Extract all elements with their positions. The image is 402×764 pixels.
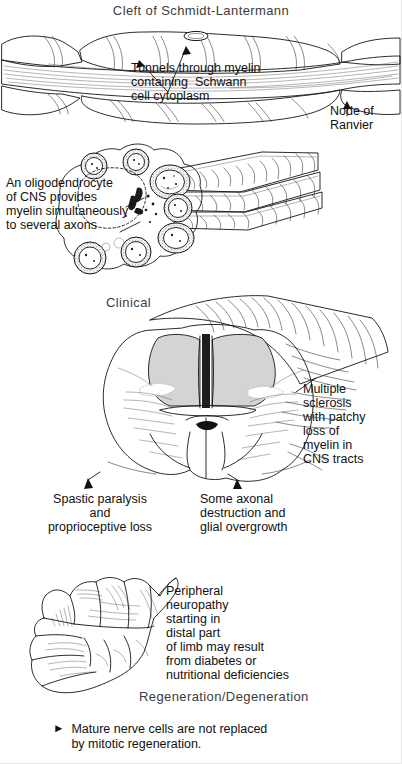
section-header-regeneration-degeneration: Regeneration/Degeneration bbox=[139, 690, 309, 705]
bullet-marker-icon: ► bbox=[53, 722, 64, 736]
bullet-text: Mature nerve cells are not replaced by m… bbox=[71, 722, 267, 752]
callout-peripheral-neuropathy: Peripheral neuropathy starting in distal… bbox=[166, 584, 289, 682]
figure-page: Cleft of Schmidt-Lantermann bbox=[0, 0, 401, 763]
callout-axonal-destruction: Some axonal destruction and glial overgr… bbox=[200, 492, 288, 534]
hand-shading bbox=[46, 586, 158, 676]
section-header-clinical: Clinical bbox=[106, 296, 151, 311]
bullet-row: ► Mature nerve cells are not replaced by… bbox=[53, 722, 267, 752]
callout-tunnels-through-myelin: Tunnels through myelin containing Schwan… bbox=[131, 61, 260, 103]
hand-figure bbox=[30, 578, 178, 693]
callout-node-of-ranvier: Node of Ranvier bbox=[330, 104, 374, 132]
callout-oligodendrocyte: An oligodendrocyte of CNS provides myeli… bbox=[6, 176, 128, 232]
white-matter-fibres bbox=[118, 368, 304, 460]
callout-multiple-sclerosis: Multiple sclerosis with patchy loss of m… bbox=[303, 382, 366, 466]
callout-spastic-paralysis: Spastic paralysis and proprioceptive los… bbox=[12, 492, 188, 534]
